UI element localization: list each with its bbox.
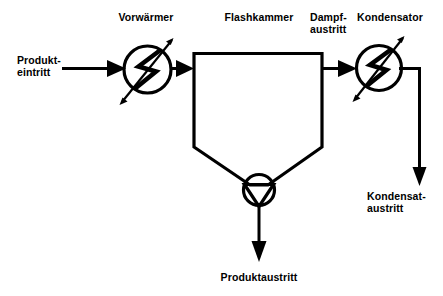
flash-chamber-vessel	[194, 54, 322, 186]
process-diagram-canvas	[0, 0, 443, 296]
label-vapor-outlet-line2: austritt	[310, 23, 360, 36]
vapor-outlet-arrow	[322, 60, 357, 77]
label-condensate-outlet-line2: austritt	[367, 202, 443, 215]
label-condensate-outlet-line1: Kondensat-	[367, 190, 443, 203]
label-product-inlet-line1: Produkt-	[17, 54, 77, 67]
label-product-inlet-line2: eintritt	[17, 66, 77, 79]
pump-symbol	[244, 175, 275, 207]
condensate-outlet-arrow	[399, 69, 427, 187]
label-flash-chamber: Flashkammer	[211, 11, 307, 24]
label-condenser: Kondensator	[357, 11, 437, 24]
label-vapor-outlet-line1: Dampf-	[310, 11, 360, 24]
preheater-symbol	[120, 38, 174, 105]
process-flow-diagram: Vorwärmer Flashkammer Dampf- austritt Ko…	[0, 0, 443, 296]
label-preheater: Vorwärmer	[104, 11, 188, 24]
product-outlet-arrow	[252, 203, 267, 262]
label-product-outlet: Produktaustritt	[199, 271, 319, 284]
preheater-to-chamber-arrow	[170, 60, 194, 77]
condenser-symbol	[353, 36, 405, 102]
